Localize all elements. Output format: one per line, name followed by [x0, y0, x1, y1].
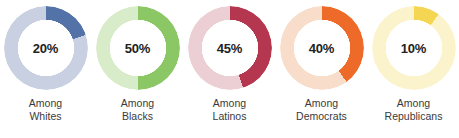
donut-graphic: 50%	[96, 6, 180, 90]
donut-graphic: 20%	[4, 6, 88, 90]
donut-graphic: 45%	[188, 6, 272, 90]
donut-value-label: 50%	[125, 42, 150, 55]
donut-chart-democrats: 40% Among Democrats	[276, 0, 367, 122]
donut-value-label: 40%	[309, 42, 334, 55]
donut-category-label-line1: Among	[385, 97, 443, 110]
donut-center: 45%	[188, 6, 272, 90]
donut-category-label-line2: Democrats	[296, 110, 347, 123]
donut-category-label: Among Blacks	[121, 97, 154, 122]
donut-category-label: Among Democrats	[296, 97, 347, 122]
donut-chart-whites: 20% Among Whites	[0, 0, 91, 122]
donut-category-label-line1: Among	[29, 97, 62, 110]
donut-chart-latinos: 45% Among Latinos	[184, 0, 275, 122]
donut-category-label: Among Republicans	[385, 97, 443, 122]
donut-center: 50%	[96, 6, 180, 90]
donut-chart-blacks: 50% Among Blacks	[92, 0, 183, 122]
donut-category-label-line2: Latinos	[213, 110, 247, 123]
donut-category-label-line1: Among	[296, 97, 347, 110]
donut-category-label: Among Whites	[29, 97, 62, 122]
donut-value-label: 45%	[217, 42, 242, 55]
donut-graphic: 10%	[372, 6, 456, 90]
donut-value-label: 20%	[33, 42, 58, 55]
donut-category-label-line2: Whites	[29, 110, 62, 123]
donut-category-label-line2: Blacks	[121, 110, 154, 123]
donut-chart-republicans: 10% Among Republicans	[368, 0, 459, 122]
donut-value-label: 10%	[401, 42, 426, 55]
donut-center: 10%	[372, 6, 456, 90]
donut-category-label-line1: Among	[213, 97, 247, 110]
donut-category-label-line1: Among	[121, 97, 154, 110]
donut-category-label-line2: Republicans	[385, 110, 443, 123]
donut-chart-row: 20% Among Whites 50% Among Blacks 45% Am…	[0, 0, 459, 138]
donut-category-label: Among Latinos	[213, 97, 247, 122]
donut-center: 40%	[280, 6, 364, 90]
donut-graphic: 40%	[280, 6, 364, 90]
donut-center: 20%	[4, 6, 88, 90]
